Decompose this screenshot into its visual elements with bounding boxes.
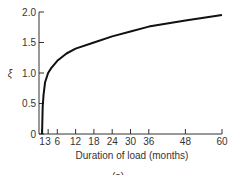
axes: 00.51.01.52.013612182430364860 — [22, 7, 228, 148]
y-axis-title: ξ — [8, 68, 13, 80]
caption-fragment: (a) — [112, 171, 124, 175]
y-tick-label: 2.0 — [22, 7, 36, 18]
y-tick-label: 0.5 — [22, 98, 36, 109]
x-tick-label: 12 — [70, 136, 82, 147]
x-tick-label: 1 — [39, 136, 45, 147]
y-tick-label: 1.0 — [22, 68, 36, 79]
x-tick-label: 48 — [180, 136, 192, 147]
x-tick-label: 30 — [125, 136, 137, 147]
x-tick-label: 36 — [143, 136, 155, 147]
x-tick-label: 60 — [216, 136, 228, 147]
x-tick-label: 18 — [88, 136, 100, 147]
x-tick-label: 24 — [107, 136, 119, 147]
xi-curve — [42, 15, 222, 134]
data-curve — [42, 15, 222, 134]
y-tick-label: 0 — [30, 129, 36, 140]
y-tick-label: 1.5 — [22, 37, 36, 48]
creep-factor-chart: 00.51.01.52.013612182430364860 Duration … — [0, 0, 234, 175]
x-tick-label: 3 — [45, 136, 51, 147]
x-tick-label: 6 — [55, 136, 61, 147]
x-axis-title: Duration of load (months) — [76, 150, 189, 161]
